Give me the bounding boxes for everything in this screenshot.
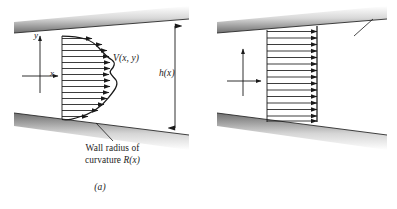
velocity-arrows	[267, 32, 317, 122]
lower-wall	[217, 113, 387, 150]
caption-a: (a)	[75, 182, 125, 193]
velocity-profile-curve	[62, 36, 117, 120]
velocity-label-a: V(x, y)	[113, 53, 139, 64]
velocity-arrows	[62, 39, 110, 117]
wall-note-line2-prefix: curvature	[85, 155, 123, 165]
height-label: h(x)	[159, 68, 175, 79]
coordinate-axes	[22, 36, 58, 93]
wall-note-line1: Wall radius of	[86, 143, 140, 153]
panel-a: V(x, y) h(x) y x Wall radius of curvatur…	[0, 0, 200, 209]
panel-b: V(x) y x Area A(x) (b)	[197, 0, 397, 209]
figure-root: V(x, y) h(x) y x Wall radius of curvatur…	[0, 0, 397, 209]
y-axis-label-a: y	[34, 30, 38, 41]
panel-b-drawing	[197, 0, 397, 209]
x-axis-label-a: x	[50, 68, 54, 79]
panel-a-drawing	[0, 0, 200, 209]
upper-wall	[14, 6, 189, 33]
wall-note-line2-math: R(x)	[124, 155, 140, 165]
wall-radius-note: Wall radius of curvature R(x)	[60, 143, 165, 166]
coordinate-axes	[227, 49, 261, 96]
